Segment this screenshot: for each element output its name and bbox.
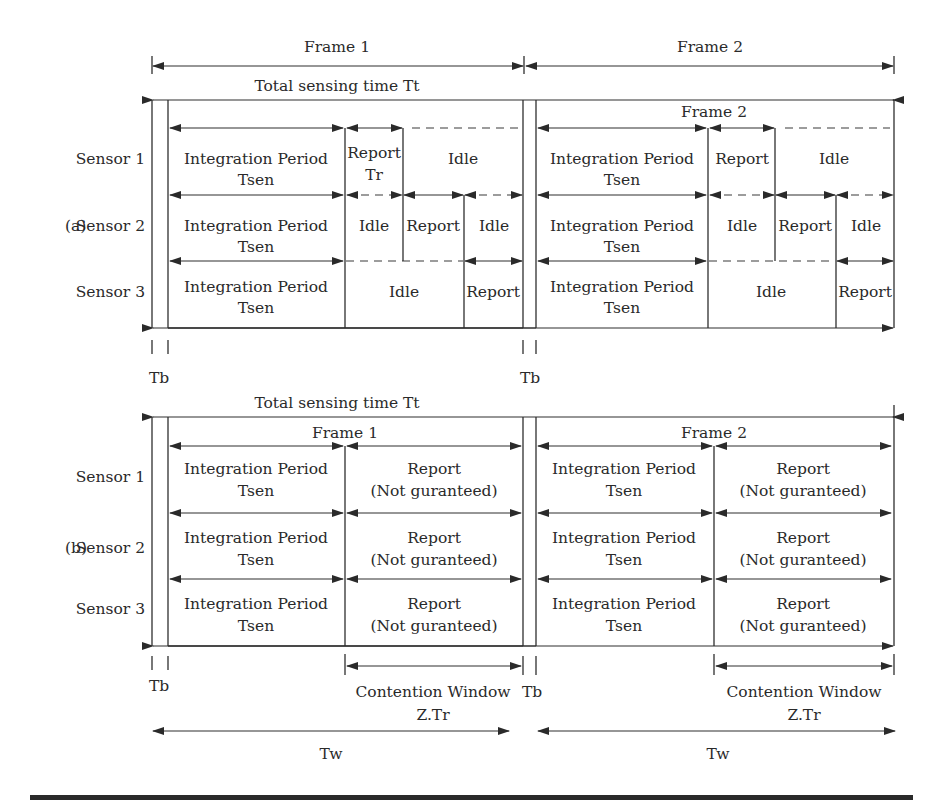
report-text: Report xyxy=(715,150,770,168)
report-text: Report xyxy=(778,217,833,235)
not-guaranteed-text: (Not guranteed) xyxy=(739,551,866,569)
integration-period-text: Integration Period xyxy=(550,150,694,168)
tb-label: Tb xyxy=(520,369,540,387)
integration-period-text: Integration Period xyxy=(184,278,328,296)
integration-period-text: Integration Period xyxy=(184,217,328,235)
integration-period-text: Integration Period xyxy=(184,460,328,478)
idle-text: Idle xyxy=(727,217,757,235)
integration-period-text: Integration Period xyxy=(550,217,694,235)
tw-label: Tw xyxy=(319,745,343,763)
sensor1-label: Sensor 1 xyxy=(76,468,145,486)
panel-b: Total sensing time Tt Frame 1 Frame 2 (b… xyxy=(65,394,895,763)
report-text: Report xyxy=(776,595,831,613)
tsen-text: Tsen xyxy=(238,551,274,569)
tsen-text: Tsen xyxy=(606,482,642,500)
not-guaranteed-text: (Not guranteed) xyxy=(370,551,497,569)
idle-text: Idle xyxy=(448,150,478,168)
sensor2-label: Sensor 2 xyxy=(76,539,145,557)
report-text: Report xyxy=(407,460,462,478)
contention-window-label: Contention Window xyxy=(355,683,511,701)
integration-period-text: Integration Period xyxy=(552,460,696,478)
not-guaranteed-text: (Not guranteed) xyxy=(370,482,497,500)
tr-text: Tr xyxy=(365,166,383,184)
report-text: Report xyxy=(776,529,831,547)
report-text: Report xyxy=(776,460,831,478)
integration-period-text: Integration Period xyxy=(184,150,328,168)
frame2-title: Frame 2 xyxy=(677,38,743,56)
frame2-inner-title: Frame 2 xyxy=(681,103,747,121)
tb-label: Tb xyxy=(149,369,169,387)
z-tr-label: Z.Tr xyxy=(787,706,821,724)
tsen-text: Tsen xyxy=(606,617,642,635)
tsen-text: Tsen xyxy=(238,171,274,189)
frame1-title: Frame 1 xyxy=(304,38,370,56)
sensor3-label: Sensor 3 xyxy=(76,600,145,618)
idle-text: Idle xyxy=(479,217,509,235)
total-sensing-time-label: Total sensing time Tt xyxy=(254,77,420,95)
tb-label: Tb xyxy=(149,677,169,695)
frame2-inner-title: Frame 2 xyxy=(681,424,747,442)
tsen-text: Tsen xyxy=(238,238,274,256)
idle-text: Idle xyxy=(389,283,419,301)
tsen-text: Tsen xyxy=(604,238,640,256)
integration-period-text: Integration Period xyxy=(184,529,328,547)
tsen-text: Tsen xyxy=(238,482,274,500)
z-tr-label: Z.Tr xyxy=(416,706,450,724)
tsen-text: Tsen xyxy=(606,551,642,569)
panel-a: Total sensing time Tt Frame 2 xyxy=(65,77,894,387)
idle-text: Idle xyxy=(851,217,881,235)
report-text: Report xyxy=(466,283,521,301)
integration-period-text: Integration Period xyxy=(552,595,696,613)
not-guaranteed-text: (Not guranteed) xyxy=(739,482,866,500)
report-text: Report xyxy=(407,595,462,613)
report-text: Report xyxy=(407,529,462,547)
tsen-text: Tsen xyxy=(238,617,274,635)
report-text: Report xyxy=(838,283,893,301)
tdma-timing-diagram: Frame 1 Frame 2 Total sensing time Tt Fr… xyxy=(0,0,946,810)
tb-label: Tb xyxy=(522,683,542,701)
integration-period-text: Integration Period xyxy=(552,529,696,547)
report-text: Report xyxy=(406,217,461,235)
report-text: Report xyxy=(347,144,402,162)
sensor3-label: Sensor 3 xyxy=(76,283,145,301)
tsen-text: Tsen xyxy=(604,171,640,189)
integration-period-text: Integration Period xyxy=(184,595,328,613)
not-guaranteed-text: (Not guranteed) xyxy=(370,617,497,635)
tw-label: Tw xyxy=(706,745,730,763)
top-frame-arrows: Frame 1 Frame 2 xyxy=(152,38,894,74)
sensor1-label: Sensor 1 xyxy=(76,150,145,168)
tsen-text: Tsen xyxy=(238,299,274,317)
bottom-rule xyxy=(30,795,913,800)
sensor2-label: Sensor 2 xyxy=(76,217,145,235)
frame1-inner-title: Frame 1 xyxy=(312,424,378,442)
total-sensing-time-label: Total sensing time Tt xyxy=(254,394,420,412)
idle-text: Idle xyxy=(756,283,786,301)
tsen-text: Tsen xyxy=(604,299,640,317)
not-guaranteed-text: (Not guranteed) xyxy=(739,617,866,635)
idle-text: Idle xyxy=(819,150,849,168)
contention-window-label: Contention Window xyxy=(726,683,882,701)
idle-text: Idle xyxy=(359,217,389,235)
integration-period-text: Integration Period xyxy=(550,278,694,296)
